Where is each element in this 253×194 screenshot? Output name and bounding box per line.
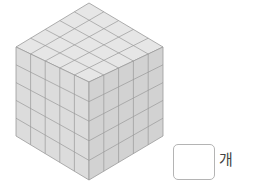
unit-label: 개 — [219, 150, 233, 170]
unit-cube-stack-figure — [0, 0, 180, 194]
answer-input-box[interactable] — [173, 144, 215, 180]
